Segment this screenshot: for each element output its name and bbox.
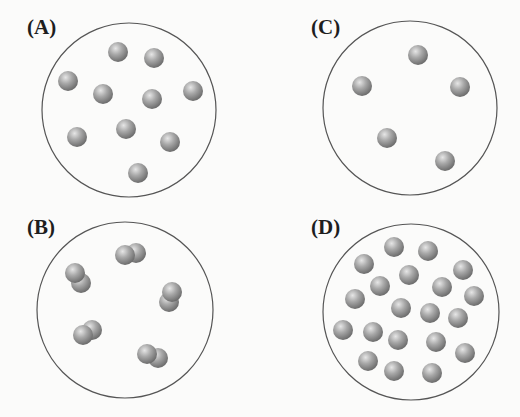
atom-sphere xyxy=(432,277,452,297)
atom-sphere xyxy=(450,77,470,97)
atom-sphere xyxy=(453,260,473,280)
panel-c xyxy=(323,21,497,195)
atom-sphere xyxy=(420,303,440,323)
atom-sphere xyxy=(363,322,383,342)
atom-sphere xyxy=(354,254,374,274)
atom-sphere xyxy=(435,151,455,171)
atom-sphere xyxy=(464,286,484,306)
panel-label-c: (C) xyxy=(311,17,340,38)
diatomic-molecule xyxy=(115,243,146,265)
atom-sphere xyxy=(142,89,162,109)
atom-sphere xyxy=(408,45,428,65)
atom-sphere xyxy=(144,48,164,68)
atom-sphere xyxy=(358,351,378,371)
atom-sphere xyxy=(352,76,372,96)
container-circle xyxy=(323,21,497,195)
container-circle xyxy=(323,224,499,400)
atom-sphere xyxy=(93,84,113,104)
atom-sphere xyxy=(108,42,128,62)
atom-sphere xyxy=(162,282,182,302)
diatomic-molecule xyxy=(73,320,102,345)
atom-sphere xyxy=(377,128,397,148)
panel-label-d: (D) xyxy=(311,217,340,238)
atom-sphere xyxy=(65,263,85,283)
atom-sphere xyxy=(391,298,411,318)
panel-a xyxy=(42,23,216,197)
atom-sphere xyxy=(455,343,475,363)
atom-sphere xyxy=(345,289,365,309)
diatomic-molecule xyxy=(137,344,168,368)
diatomic-molecule xyxy=(65,263,91,293)
atom-sphere xyxy=(388,330,408,350)
atom-sphere xyxy=(58,71,78,91)
atom-sphere xyxy=(370,276,390,296)
atom-sphere xyxy=(128,163,148,183)
panel-label-a: (A) xyxy=(27,17,56,38)
atom-sphere xyxy=(183,81,203,101)
atom-sphere xyxy=(116,119,136,139)
atom-sphere xyxy=(399,265,419,285)
particle-diagram xyxy=(0,0,520,417)
panel-b xyxy=(37,222,213,398)
atom-sphere xyxy=(115,245,135,265)
atom-sphere xyxy=(73,325,93,345)
atom-sphere xyxy=(448,308,468,328)
atom-sphere xyxy=(67,127,87,147)
panel-d xyxy=(323,224,499,400)
atom-sphere xyxy=(422,363,442,383)
atom-sphere xyxy=(384,237,404,257)
atom-sphere xyxy=(160,132,180,152)
atom-sphere xyxy=(426,332,446,352)
atom-sphere xyxy=(418,241,438,261)
atom-sphere xyxy=(137,344,157,364)
atom-sphere xyxy=(333,320,353,340)
atom-sphere xyxy=(384,361,404,381)
diatomic-molecule xyxy=(159,282,182,312)
panel-label-b: (B) xyxy=(27,217,55,238)
